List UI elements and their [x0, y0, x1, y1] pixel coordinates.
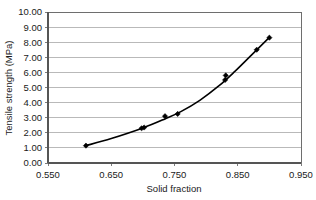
y-tick-label: 4.00	[24, 97, 43, 108]
y-tick-label: 9.00	[24, 22, 43, 33]
x-tick-label: 0.950	[289, 169, 313, 180]
chart-figure: 0.001.002.003.004.005.006.007.008.009.00…	[0, 0, 316, 200]
x-tick-label: 0.750	[163, 169, 187, 180]
y-tick-label: 8.00	[24, 37, 43, 48]
y-tick-label: 7.00	[24, 52, 43, 63]
x-axis-title: Solid fraction	[147, 183, 202, 194]
y-axis-title: Tensile strength (MPa)	[3, 40, 14, 135]
y-tick-label: 10.00	[18, 6, 42, 17]
x-tick-label: 0.850	[226, 169, 250, 180]
y-tick-label: 3.00	[24, 112, 43, 123]
y-tick-label: 2.00	[24, 127, 43, 138]
x-tick-label: 0.650	[99, 169, 123, 180]
y-tick-label: 0.00	[24, 157, 43, 168]
y-tick-label: 6.00	[24, 67, 43, 78]
y-tick-label: 1.00	[24, 142, 43, 153]
y-tick-label: 5.00	[24, 82, 43, 93]
tensile-strength-vs-solid-fraction-chart: 0.001.002.003.004.005.006.007.008.009.00…	[0, 0, 316, 200]
x-tick-label: 0.550	[36, 169, 60, 180]
